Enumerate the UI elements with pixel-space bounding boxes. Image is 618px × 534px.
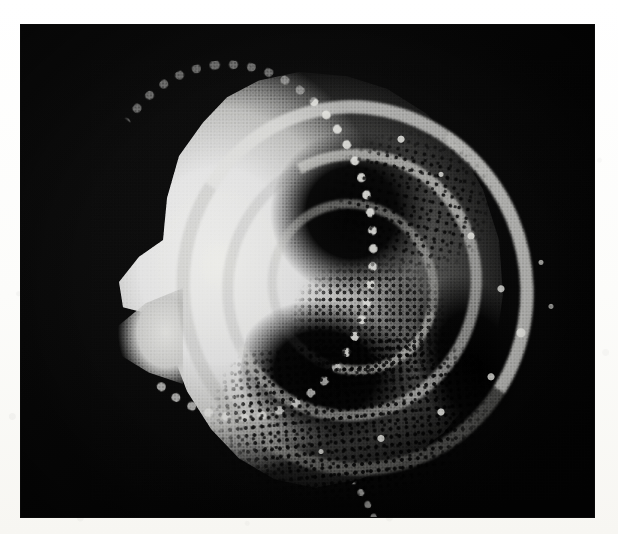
micrograph-plate bbox=[21, 25, 594, 517]
pore-field-lower bbox=[202, 325, 520, 517]
micrograph-page: Scanning electron micrograph of a coiled… bbox=[0, 0, 618, 534]
specimen-microfossil bbox=[91, 60, 591, 500]
